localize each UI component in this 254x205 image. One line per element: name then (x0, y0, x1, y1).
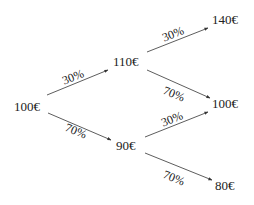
probability-tree-diagram: 100€ 110€ 90€ 140€ 100€ 80€ 30% 70% 30% … (0, 0, 254, 205)
node-up-up: 140€ (212, 13, 238, 27)
node-down-down: 80€ (215, 179, 235, 193)
node-down: 90€ (116, 139, 136, 153)
node-root: 100€ (14, 100, 40, 114)
node-middle: 100€ (212, 97, 238, 111)
node-up: 110€ (113, 55, 139, 69)
